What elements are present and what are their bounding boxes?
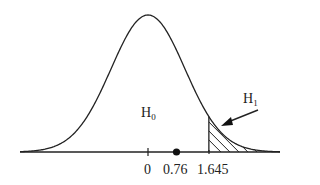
hatch-line — [268, 100, 293, 152]
tick-label-zero: 0 — [144, 163, 151, 177]
h0-main: H — [141, 105, 151, 120]
h0-sub: 0 — [151, 112, 156, 122]
bell-curve — [20, 15, 280, 152]
tick-label-observed: 0.76 — [163, 163, 188, 177]
alt-hypothesis-label: H1 — [243, 92, 258, 108]
h1-arrow-head-icon — [221, 117, 233, 126]
observed-value-dot — [173, 148, 180, 155]
rejection-region-hatch — [169, 100, 293, 152]
hatch-line — [232, 100, 284, 152]
hatch-line — [259, 100, 293, 152]
tick-label-critical: 1.645 — [197, 163, 229, 177]
null-hypothesis-label: H0 — [141, 106, 156, 122]
h1-sub: 1 — [253, 98, 258, 108]
h1-main: H — [243, 91, 253, 106]
hatch-line — [277, 100, 293, 152]
h1-arrow-shaft — [228, 110, 258, 122]
hatch-line — [286, 100, 293, 152]
